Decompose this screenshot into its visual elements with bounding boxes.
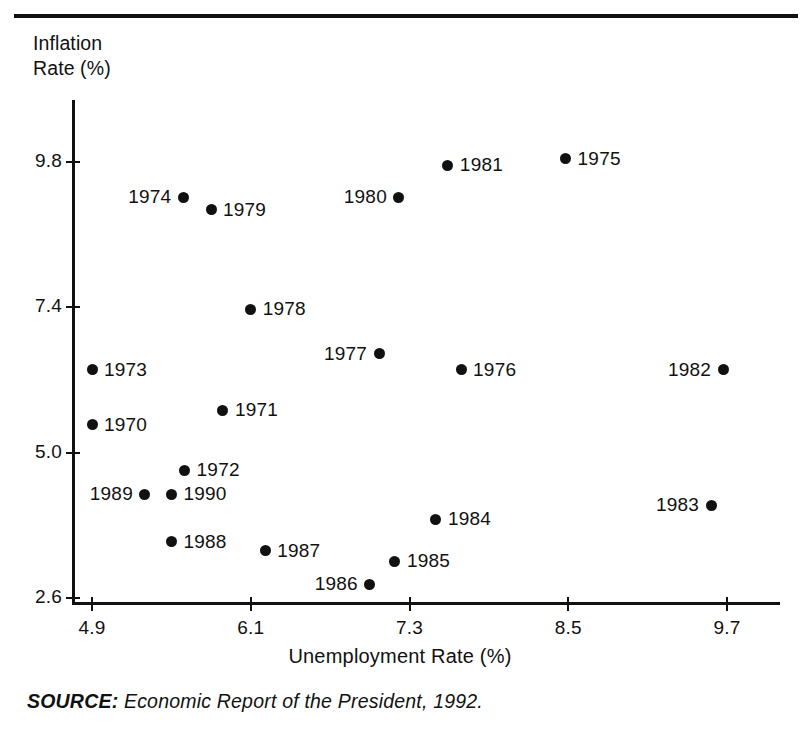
scatter-point-label: 1980 xyxy=(344,186,387,208)
y-axis-line xyxy=(72,100,75,605)
source-citation: Economic Report of the President, 1992. xyxy=(118,690,483,712)
x-tick-label: 8.5 xyxy=(538,617,598,639)
scatter-point-label: 1972 xyxy=(197,459,240,481)
x-tick-mark xyxy=(726,597,728,611)
x-tick-label: 6.1 xyxy=(221,617,281,639)
source-keyword: SOURCE: xyxy=(27,690,118,712)
x-axis-line xyxy=(72,602,780,605)
scatter-point-label: 1990 xyxy=(183,483,226,505)
scatter-point-label: 1970 xyxy=(104,414,147,436)
y-axis-title: Inflation Rate (%) xyxy=(33,31,111,81)
x-tick-label: 7.3 xyxy=(380,617,440,639)
scatter-point-label: 1985 xyxy=(407,550,450,572)
scatter-dot-icon xyxy=(87,364,98,375)
scatter-dot-icon xyxy=(206,204,217,215)
scatter-dot-icon xyxy=(706,500,717,511)
scatter-dot-icon xyxy=(166,536,177,547)
source-note: SOURCE: Economic Report of the President… xyxy=(27,690,483,713)
scatter-dot-icon xyxy=(245,304,256,315)
scatter-dot-icon xyxy=(456,364,467,375)
scatter-point-label: 1987 xyxy=(277,540,320,562)
scatter-dot-icon xyxy=(364,579,375,590)
y-tick-label: 9.8 xyxy=(16,150,62,172)
y-tick-label: 5.0 xyxy=(16,441,62,463)
scatter-point-label: 1988 xyxy=(183,531,226,553)
scatter-point-label: 1979 xyxy=(223,199,266,221)
scatter-point-label: 1978 xyxy=(263,298,306,320)
y-tick-mark xyxy=(66,306,80,308)
y-tick-label: 7.4 xyxy=(16,295,62,317)
scatter-dot-icon xyxy=(389,556,400,567)
scatter-point-label: 1976 xyxy=(473,359,516,381)
scatter-dot-icon xyxy=(178,192,189,203)
x-tick-mark xyxy=(250,597,252,611)
scatter-dot-icon xyxy=(87,419,98,430)
x-tick-label: 4.9 xyxy=(62,617,122,639)
scatter-point-label: 1981 xyxy=(460,154,503,176)
scatter-point-label: 1971 xyxy=(235,399,278,421)
scatter-dot-icon xyxy=(560,153,571,164)
scatter-dot-icon xyxy=(430,514,441,525)
scatter-point-label: 1974 xyxy=(128,186,171,208)
scatter-point-label: 1983 xyxy=(656,494,699,516)
x-tick-mark xyxy=(567,597,569,611)
scatter-dot-icon xyxy=(139,489,150,500)
scatter-point-label: 1982 xyxy=(668,359,711,381)
x-tick-mark xyxy=(91,597,93,611)
x-tick-label: 9.7 xyxy=(697,617,757,639)
x-axis-title: Unemployment Rate (%) xyxy=(0,645,800,668)
scatter-point-label: 1986 xyxy=(315,573,358,595)
x-tick-mark xyxy=(409,597,411,611)
scatter-dot-icon xyxy=(442,160,453,171)
scatter-point-label: 1977 xyxy=(324,343,367,365)
scatter-point-label: 1973 xyxy=(104,359,147,381)
y-tick-mark xyxy=(66,597,80,599)
y-tick-mark xyxy=(66,452,80,454)
scatter-dot-icon xyxy=(179,465,190,476)
scatter-point-label: 1984 xyxy=(448,508,491,530)
scatter-dot-icon xyxy=(166,489,177,500)
y-tick-mark xyxy=(66,161,80,163)
scatter-point-label: 1975 xyxy=(578,148,621,170)
scatter-dot-icon xyxy=(718,364,729,375)
scatter-dot-icon xyxy=(217,405,228,416)
phillips-curve-figure: Inflation Rate (%) 9.87.45.02.6 4.96.17.… xyxy=(0,0,800,736)
scatter-dot-icon xyxy=(260,545,271,556)
y-tick-label: 2.6 xyxy=(16,586,62,608)
scatter-dot-icon xyxy=(393,192,404,203)
scatter-dot-icon xyxy=(374,348,385,359)
scatter-point-label: 1989 xyxy=(90,483,133,505)
top-divider-rule xyxy=(14,14,798,18)
